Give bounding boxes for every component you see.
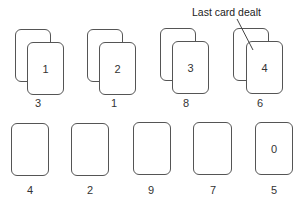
card-count-label: 5: [264, 184, 284, 196]
callout-leader-line: [0, 0, 303, 208]
card-count-label: 9: [141, 184, 161, 196]
card-count-label: 4: [20, 184, 40, 196]
single-card: [11, 123, 49, 176]
single-card: 0: [255, 122, 293, 175]
card-count-label: 2: [80, 184, 100, 196]
single-card: [193, 122, 232, 175]
single-card: [71, 123, 109, 176]
card-value: 0: [256, 143, 292, 155]
single-card: [133, 122, 171, 175]
card-count-label: 7: [203, 184, 223, 196]
